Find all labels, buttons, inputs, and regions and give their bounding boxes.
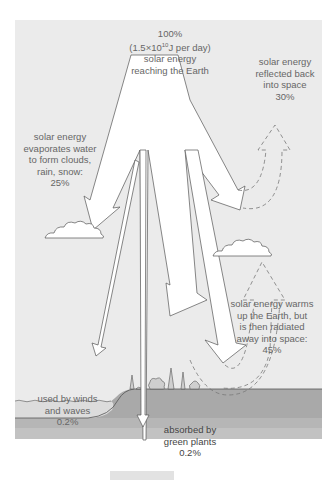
radiated-line4: away into space: <box>222 333 322 345</box>
incoming-percent: 100% <box>110 28 230 40</box>
amount-base: (1.5×10 <box>129 42 162 53</box>
winds-line1: used by winds <box>30 393 105 405</box>
reflected-dashed-arrow <box>238 125 290 209</box>
radiated-percent: 45% <box>222 344 322 356</box>
clouds <box>45 221 272 256</box>
incoming-line3: solar energy <box>110 53 230 65</box>
page-tab-marker <box>110 471 174 480</box>
amount-unit: J per day) <box>168 42 210 53</box>
radiated-line3: is then radiated <box>222 321 322 333</box>
label-evaporation: solar energy evaporates water to form cl… <box>10 131 110 189</box>
plants-illustration <box>130 368 200 389</box>
label-winds: used by winds and waves 0.2% <box>30 393 105 428</box>
evaporation-percent: 25% <box>10 177 110 189</box>
reflected-line3: into space <box>240 79 330 91</box>
evaporation-line2: evaporates water <box>10 143 110 155</box>
plants-line2: green plants <box>150 436 230 448</box>
incoming-energy-arrow <box>84 55 245 440</box>
evaporation-line4: rain, snow: <box>10 166 110 178</box>
incoming-amount: (1.5×1010J per day) <box>110 40 230 54</box>
plants-line1: absorbed by <box>150 424 230 436</box>
winds-percent: 0.2% <box>30 416 105 428</box>
label-radiated: solar energy warms up the Earth, but is … <box>222 298 322 356</box>
reflected-line1: solar energy <box>240 56 330 68</box>
label-incoming-energy: 100% (1.5×1010J per day) solar energy re… <box>110 28 230 76</box>
cloud-right <box>213 239 272 256</box>
radiated-line2: up the Earth, but <box>222 310 322 322</box>
plants-percent: 0.2% <box>150 447 230 459</box>
reflected-percent: 30% <box>240 91 330 103</box>
label-reflected: solar energy reflected back into space 3… <box>240 56 330 102</box>
label-plants: absorbed by green plants 0.2% <box>150 424 230 459</box>
evaporation-line3: to form clouds, <box>10 154 110 166</box>
winds-line2: and waves <box>30 405 105 417</box>
radiated-line1: solar energy warms <box>222 298 322 310</box>
evaporation-line1: solar energy <box>10 131 110 143</box>
reflected-line2: reflected back <box>240 68 330 80</box>
incoming-line4: reaching the Earth <box>110 65 230 77</box>
